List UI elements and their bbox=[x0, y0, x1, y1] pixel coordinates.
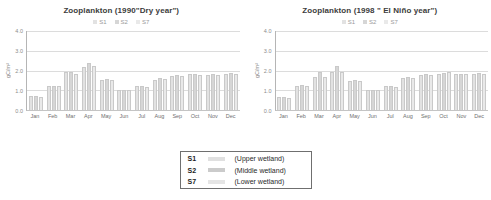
x-tick-label: Oct bbox=[186, 113, 204, 119]
bar-s1-oct bbox=[188, 74, 192, 110]
bar-s1-nov bbox=[454, 74, 458, 110]
x-tick-label: May bbox=[346, 113, 364, 119]
station-label: (Lower wetland) bbox=[235, 178, 285, 185]
bar-s1-dec bbox=[472, 74, 476, 110]
bar-s7-jul bbox=[145, 87, 149, 110]
bar-s2-may bbox=[353, 80, 357, 110]
legend-swatch-icon bbox=[115, 20, 119, 24]
x-tick-label: Feb bbox=[292, 113, 310, 119]
bar-s1-jun bbox=[366, 90, 370, 110]
x-tick-label: Mar bbox=[62, 113, 80, 119]
x-tick-label: Oct bbox=[435, 113, 453, 119]
legend-swatch-icon bbox=[136, 20, 140, 24]
bar-s7-jul bbox=[394, 87, 398, 110]
x-tick-label: Feb bbox=[44, 113, 62, 119]
bar-s1-jan bbox=[29, 96, 33, 110]
chart-dry-year: Zooplankton (1990"Dry year") S1S2S7 gC/m… bbox=[3, 6, 240, 119]
legend-item-label: S7 bbox=[390, 19, 397, 25]
bar-group-aug bbox=[151, 31, 169, 110]
station-legend-row-s2: S2(Middle wetland) bbox=[188, 167, 304, 174]
bar-group-jul bbox=[382, 31, 400, 110]
bar-s7-jan bbox=[39, 97, 43, 110]
x-axis-labels: JanFebMarAprMayJunJulAugSepOctNovDec bbox=[275, 113, 489, 119]
bar-s1-dec bbox=[224, 74, 228, 110]
bar-s7-mar bbox=[74, 74, 78, 110]
bar-s1-apr bbox=[330, 72, 334, 110]
x-tick-label: Sep bbox=[168, 113, 186, 119]
legend-item-s2: S2 bbox=[115, 19, 128, 25]
x-tick-label: Sep bbox=[417, 113, 435, 119]
bar-s7-aug bbox=[163, 79, 167, 110]
bar-s1-jul bbox=[384, 86, 388, 110]
bar-s7-jun bbox=[376, 90, 380, 110]
x-tick-label: Jun bbox=[115, 113, 133, 119]
bars-row bbox=[276, 31, 489, 110]
x-tick-label: Jan bbox=[26, 113, 44, 119]
bar-group-jan bbox=[276, 31, 294, 110]
bar-s7-sep bbox=[180, 76, 184, 110]
bar-s1-may bbox=[100, 80, 104, 110]
chart-title-el-nino-year: Zooplankton (1998 " El Niño year") bbox=[252, 6, 489, 15]
charts-row: Zooplankton (1990"Dry year") S1S2S7 gC/m… bbox=[0, 6, 491, 119]
bar-group-jul bbox=[133, 31, 151, 110]
legend-swatch-icon bbox=[93, 20, 97, 24]
x-tick-label: Jul bbox=[133, 113, 151, 119]
station-code: S7 bbox=[188, 178, 208, 185]
x-tick-label: Nov bbox=[452, 113, 470, 119]
bar-s7-apr bbox=[340, 72, 344, 110]
bar-s2-feb bbox=[52, 86, 56, 110]
bar-s1-nov bbox=[206, 75, 210, 110]
y-axis-ticks: 4.03.02.01.00.0 bbox=[261, 31, 275, 111]
bar-s2-sep bbox=[424, 74, 428, 110]
y-tick-label: 4.0 bbox=[264, 28, 272, 34]
bar-group-aug bbox=[399, 31, 417, 110]
bar-s7-feb bbox=[305, 86, 309, 110]
bar-s1-may bbox=[348, 81, 352, 110]
station-code: S2 bbox=[188, 167, 208, 174]
legend-item-s7: S7 bbox=[384, 19, 397, 25]
bar-s7-oct bbox=[198, 75, 202, 110]
bar-s7-nov bbox=[464, 74, 468, 110]
x-tick-label: May bbox=[97, 113, 115, 119]
y-tick-label: 4.0 bbox=[15, 28, 23, 34]
bar-s7-may bbox=[358, 81, 362, 110]
bar-s2-jan bbox=[34, 96, 38, 110]
station-legend-row-s1: S1(Upper wetland) bbox=[188, 155, 304, 162]
y-axis-label: gC/m² bbox=[252, 31, 261, 111]
plot-wrap: gC/m² 4.03.02.01.00.0 JanFebMarAprMayJun… bbox=[3, 31, 240, 119]
station-label: (Middle wetland) bbox=[235, 167, 286, 174]
x-tick-label: Jul bbox=[381, 113, 399, 119]
bar-s7-dec bbox=[482, 74, 486, 110]
bar-s2-jan bbox=[282, 97, 286, 110]
legend-item-s2: S2 bbox=[363, 19, 376, 25]
legend-item-s7: S7 bbox=[136, 19, 149, 25]
bar-s2-oct bbox=[193, 74, 197, 110]
legend-item-label: S7 bbox=[142, 19, 149, 25]
bar-s7-jan bbox=[287, 98, 291, 110]
y-tick-label: 1.0 bbox=[15, 88, 23, 94]
bar-group-oct bbox=[186, 31, 204, 110]
plot-area bbox=[26, 31, 240, 111]
bar-s7-sep bbox=[429, 75, 433, 110]
bar-group-jan bbox=[27, 31, 45, 110]
bar-group-mar bbox=[311, 31, 329, 110]
x-tick-label: Apr bbox=[79, 113, 97, 119]
bar-s7-oct bbox=[447, 72, 451, 110]
bar-s1-aug bbox=[153, 80, 157, 110]
bar-s2-apr bbox=[87, 63, 91, 110]
bar-s1-mar bbox=[313, 77, 317, 110]
bar-s2-mar bbox=[318, 72, 322, 110]
station-swatch-icon bbox=[208, 180, 225, 184]
bar-s2-aug bbox=[158, 78, 162, 110]
legend-item-label: S2 bbox=[121, 19, 128, 25]
bar-s2-nov bbox=[211, 74, 215, 110]
bar-s2-sep bbox=[175, 75, 179, 110]
bar-s1-jan bbox=[277, 97, 281, 110]
plot-column: JanFebMarAprMayJunJulAugSepOctNovDec bbox=[275, 31, 489, 119]
bar-s7-aug bbox=[411, 78, 415, 110]
x-axis-labels: JanFebMarAprMayJunJulAugSepOctNovDec bbox=[26, 113, 240, 119]
station-code: S1 bbox=[188, 155, 208, 162]
bar-group-sep bbox=[417, 31, 435, 110]
station-legend-row-s7: S7(Lower wetland) bbox=[188, 178, 304, 185]
bar-s2-nov bbox=[459, 74, 463, 110]
